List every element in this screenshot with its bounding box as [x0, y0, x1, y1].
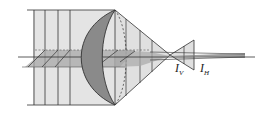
label-ih: IH	[199, 61, 210, 77]
label-iv: IV	[174, 61, 184, 77]
astigmatism-diagram: IV IH	[0, 0, 278, 113]
diverging-beam	[170, 40, 194, 70]
